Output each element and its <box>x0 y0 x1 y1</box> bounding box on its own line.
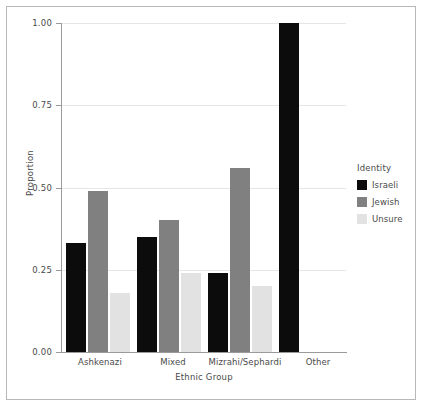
y-tick-mark-0-50 <box>56 188 61 189</box>
legend-label-unsure: Unsure <box>372 214 403 224</box>
y-tick-mark-0-75 <box>56 105 61 106</box>
y-axis-title: Proportion <box>25 133 35 213</box>
bar-mixed-jewish <box>159 220 179 352</box>
legend-swatch-israeli <box>357 180 367 190</box>
bar-mixed-unsure <box>181 273 201 352</box>
legend-item-israeli[interactable]: Israeli <box>357 177 417 192</box>
plot-area <box>62 23 346 352</box>
bar-mixed-israeli <box>137 237 157 352</box>
legend: Identity Israeli Jewish Unsure <box>357 163 417 228</box>
legend-label-jewish: Jewish <box>372 197 399 207</box>
bar-mizrahi-sephardi-israeli <box>208 273 228 352</box>
bar-ashkenazi-unsure <box>110 293 130 352</box>
y-tick-label-1-00: 1.00 <box>12 18 52 28</box>
x-axis-line <box>61 352 347 353</box>
legend-item-unsure[interactable]: Unsure <box>357 211 417 226</box>
bar-mizrahi-sephardi-unsure <box>252 286 272 352</box>
bar-other-israeli <box>279 23 299 352</box>
legend-label-israeli: Israeli <box>372 180 398 190</box>
x-tick-label-other: Other <box>273 357 363 367</box>
y-tick-label-0-25: 0.25 <box>12 265 52 275</box>
y-tick-label-0-00: 0.00 <box>12 347 52 357</box>
legend-title: Identity <box>357 163 417 173</box>
bar-mizrahi-sephardi-jewish <box>230 168 250 352</box>
x-axis-title: Ethnic Group <box>62 372 346 382</box>
legend-swatch-jewish <box>357 197 367 207</box>
bar-ashkenazi-israeli <box>66 243 86 352</box>
y-tick-mark-1-00 <box>56 23 61 24</box>
bar-ashkenazi-jewish <box>88 191 108 352</box>
y-tick-mark-0-25 <box>56 270 61 271</box>
legend-item-jewish[interactable]: Jewish <box>357 194 417 209</box>
y-tick-mark-0-00 <box>56 352 61 353</box>
y-tick-label-0-75: 0.75 <box>12 100 52 110</box>
legend-swatch-unsure <box>357 214 367 224</box>
chart-figure: 1.00 0.75 0.50 0.25 0.00 Proportion Ashk… <box>0 0 423 408</box>
